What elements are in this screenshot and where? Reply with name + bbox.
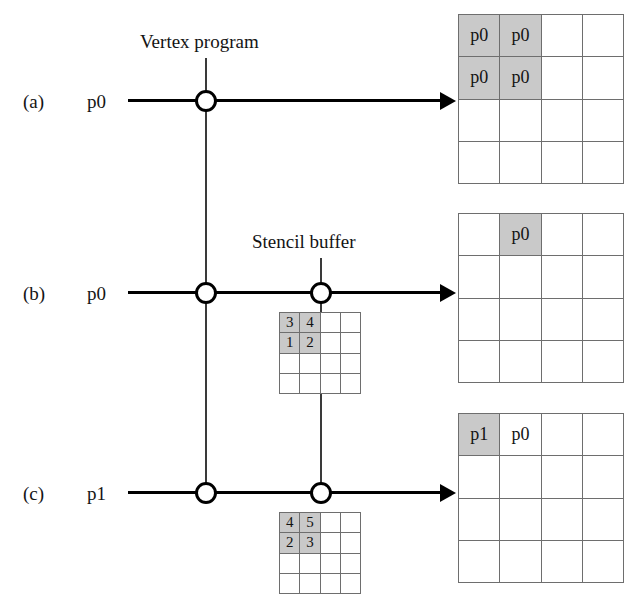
grid-cell [583, 57, 624, 99]
grid-cell [341, 313, 361, 333]
grid-cell: p0 [500, 15, 541, 57]
grid-cell [341, 574, 361, 594]
grid-cell [341, 513, 361, 533]
grid-cell [583, 142, 624, 184]
grid-cell [583, 456, 624, 498]
grid-cell: 4 [300, 313, 320, 333]
grid-cell [341, 333, 361, 353]
grid-cell [300, 554, 320, 574]
grid-cell [459, 541, 500, 583]
grid-cell [341, 533, 361, 553]
row-a-wire-out [205, 99, 441, 102]
grid-cell: 4 [280, 513, 300, 533]
grid-cell: p1 [459, 414, 500, 456]
grid-cell [500, 100, 541, 142]
row-b-vertex-program-node[interactable] [195, 282, 217, 304]
grid-cell [583, 256, 624, 298]
grid-cell [542, 100, 583, 142]
row-tag-c: (c) [23, 484, 44, 503]
row-a-framebuffer-grid[interactable]: p0p0p0p0 [458, 14, 624, 184]
grid-cell [459, 456, 500, 498]
grid-cell [542, 414, 583, 456]
grid-cell: p0 [500, 214, 541, 256]
row-c-stencil-buffer-node[interactable] [310, 482, 332, 504]
grid-cell [500, 456, 541, 498]
grid-cell [583, 414, 624, 456]
grid-cell [321, 313, 341, 333]
grid-cell [280, 374, 300, 394]
row-b-arrow-icon [440, 284, 456, 302]
grid-cell [280, 354, 300, 374]
grid-cell [542, 499, 583, 541]
row-b-stencil-buffer-node[interactable] [310, 282, 332, 304]
grid-cell [542, 142, 583, 184]
grid-cell [542, 541, 583, 583]
stencil-buffer-caption: Stencil buffer [252, 232, 356, 251]
grid-cell [341, 374, 361, 394]
row-b-wire-mid [205, 291, 322, 294]
grid-cell [459, 341, 500, 383]
row-c-wire-out [320, 491, 441, 494]
grid-cell [321, 533, 341, 553]
grid-cell [459, 299, 500, 341]
grid-cell [542, 299, 583, 341]
grid-cell [321, 374, 341, 394]
grid-cell: p0 [500, 57, 541, 99]
row-c-framebuffer-grid[interactable]: p1p0 [458, 413, 624, 583]
grid-cell [459, 499, 500, 541]
row-b-input-label: p0 [87, 284, 106, 303]
grid-cell [583, 341, 624, 383]
grid-cell [341, 554, 361, 574]
row-c-stencil-grid[interactable]: 4523 [279, 512, 361, 594]
grid-cell: 5 [300, 513, 320, 533]
row-tag-b: (b) [23, 284, 45, 303]
grid-cell [542, 214, 583, 256]
grid-cell [280, 574, 300, 594]
grid-cell [583, 299, 624, 341]
grid-cell [321, 333, 341, 353]
grid-cell: p0 [459, 15, 500, 57]
row-tag-a: (a) [23, 92, 44, 111]
row-c-input-label: p1 [87, 484, 106, 503]
vertex-program-stem-a [205, 58, 207, 91]
grid-cell: 1 [280, 333, 300, 353]
grid-cell [583, 214, 624, 256]
grid-cell [583, 541, 624, 583]
grid-cell [500, 341, 541, 383]
grid-cell [321, 513, 341, 533]
row-b-wire-out [320, 291, 441, 294]
grid-cell [500, 256, 541, 298]
grid-cell [280, 554, 300, 574]
grid-cell [542, 341, 583, 383]
grid-cell [300, 574, 320, 594]
grid-cell [321, 354, 341, 374]
row-b-framebuffer-grid[interactable]: p0 [458, 213, 624, 383]
row-a-arrow-icon [440, 92, 456, 110]
row-a-vertex-program-node[interactable] [195, 90, 217, 112]
row-b-stencil-grid[interactable]: 3412 [279, 312, 361, 394]
grid-cell [583, 100, 624, 142]
row-c-wire-mid [205, 491, 322, 494]
grid-cell [459, 256, 500, 298]
grid-cell: p0 [459, 57, 500, 99]
grid-cell: 2 [280, 533, 300, 553]
row-c-arrow-icon [440, 484, 456, 502]
grid-cell [500, 142, 541, 184]
grid-cell [542, 256, 583, 298]
grid-cell [341, 354, 361, 374]
vertex-program-caption: Vertex program [140, 32, 259, 51]
grid-cell [321, 554, 341, 574]
grid-cell [542, 15, 583, 57]
grid-cell [542, 57, 583, 99]
grid-cell [583, 499, 624, 541]
grid-cell [321, 574, 341, 594]
grid-cell: 3 [300, 533, 320, 553]
grid-cell [583, 15, 624, 57]
figure-canvas: Vertex program (a) p0 p0p0p0p0 Stencil b… [0, 0, 634, 606]
grid-cell: p0 [500, 414, 541, 456]
grid-cell [500, 541, 541, 583]
grid-cell [542, 456, 583, 498]
row-c-vertex-program-node[interactable] [195, 482, 217, 504]
grid-cell [500, 299, 541, 341]
grid-cell [459, 100, 500, 142]
